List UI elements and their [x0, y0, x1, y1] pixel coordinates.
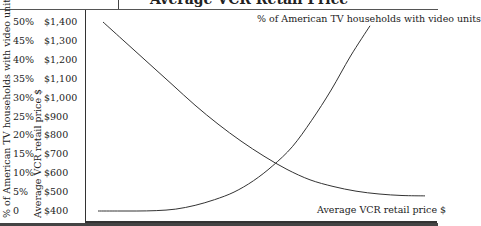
households-series-label: % of American TV households with video u…: [257, 13, 481, 24]
households-line: [98, 26, 370, 211]
price-line: [103, 22, 425, 196]
price-series-label: Average VCR retail price $: [317, 204, 446, 215]
bottom-rule: [0, 223, 438, 226]
